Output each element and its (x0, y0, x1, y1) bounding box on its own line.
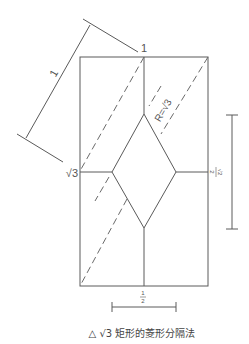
right-fraction-denominator: 2 (209, 170, 215, 174)
right-dimension-fraction: √2 2 (209, 167, 223, 177)
diagonal-dimension-label: 1 (47, 67, 60, 78)
dimension-tick-bottom (17, 134, 63, 162)
rhombus (112, 114, 176, 228)
radius-label: R=√3 (152, 97, 174, 124)
dashed-rhombus-extension-top (149, 86, 161, 106)
bottom-fraction-numerator: 1 (141, 290, 145, 296)
dashed-diagonal-upper (80, 57, 144, 171)
dashed-radius-line-lower (80, 199, 127, 286)
bottom-dimension: 1 2 (112, 290, 176, 312)
dashed-radius-line-upper (161, 57, 208, 134)
right-fraction-numerator: √2 (217, 169, 223, 176)
figure-caption: △ √3 矩形的菱形分隔法 (89, 327, 196, 339)
left-height-label: √3 (66, 167, 78, 179)
diagonal-dimension: 1 (17, 19, 138, 162)
dimension-tick-top (83, 19, 138, 52)
sqrt3-rectangle-rhombus-diagram: 1 1 R=√3 √3 √2 2 1 2 △ √3 矩形 (0, 0, 249, 344)
bottom-fraction-denominator: 2 (141, 298, 145, 304)
right-dimension: √2 2 (209, 115, 238, 229)
top-width-label: 1 (141, 42, 147, 54)
dashed-rhombus-extension-bottom (95, 177, 109, 201)
